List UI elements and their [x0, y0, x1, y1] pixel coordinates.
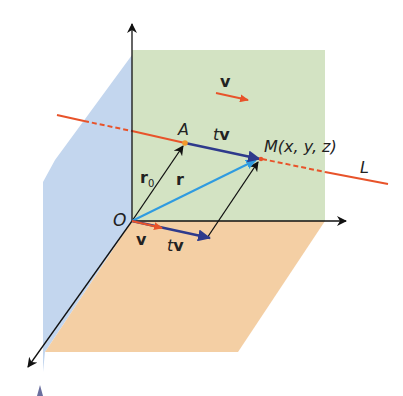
- label-L: L: [360, 158, 369, 177]
- label-O: O: [113, 210, 126, 230]
- label-tv-top: tv: [213, 125, 230, 144]
- diagram-canvas: v A tv M(x, y, z) L r0 r O v tv: [0, 0, 403, 396]
- label-v-bottom: v: [136, 230, 147, 249]
- point-A: [182, 140, 188, 146]
- label-r: r: [176, 170, 184, 189]
- label-A: A: [177, 120, 189, 139]
- triangle-marker-icon: [37, 385, 43, 396]
- point-M: [259, 157, 263, 161]
- label-v-top: v: [220, 72, 231, 91]
- label-tv-bottom: tv: [167, 236, 184, 255]
- label-M: M(x, y, z): [264, 137, 337, 156]
